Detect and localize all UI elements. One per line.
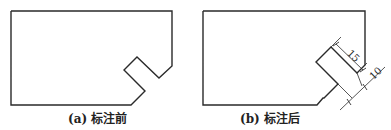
caption-after-annotation: (b) 标注后 [240,109,300,126]
dim-label-10: 10 [367,65,384,82]
ext-line-15-a [331,37,341,47]
ext-line-10-a [357,73,362,86]
figure-b-outline [203,11,365,105]
figure-a [11,11,172,105]
dim-label-15: 15 [345,47,362,64]
diagram-canvas: 15 10 [0,0,391,130]
ext-line-10-b [338,84,352,98]
figure-a-outline [11,11,172,105]
figure-b: 15 10 [203,11,385,110]
caption-before-annotation: (a) 标注前 [68,109,127,126]
